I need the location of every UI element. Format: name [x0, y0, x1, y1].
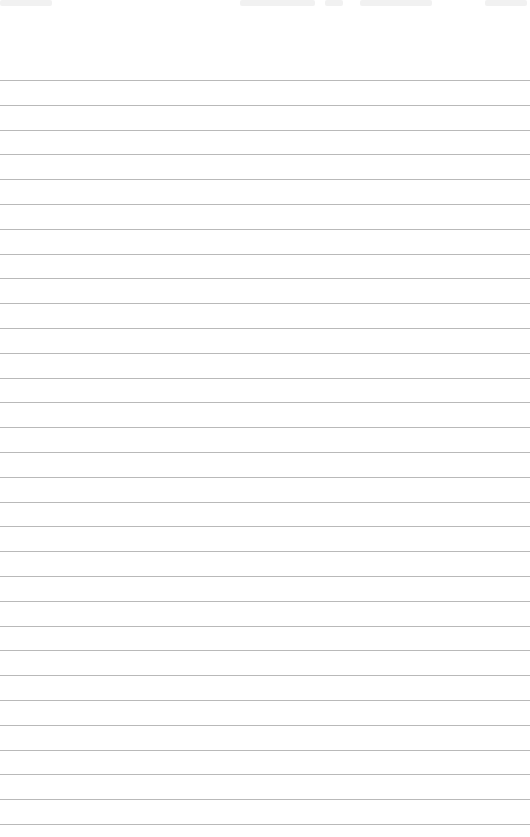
ruled-line [0, 427, 530, 428]
ruled-line [0, 378, 530, 379]
ruled-line [0, 303, 530, 304]
ruled-line [0, 774, 530, 775]
ruled-line [0, 700, 530, 701]
ruled-line [0, 675, 530, 676]
ruled-line [0, 154, 530, 155]
ruled-line [0, 105, 530, 106]
ruled-line [0, 650, 530, 651]
ruled-line [0, 551, 530, 552]
ruled-line [0, 278, 530, 279]
ruled-line [0, 452, 530, 453]
ruled-line [0, 328, 530, 329]
lined-paper-page [0, 0, 530, 837]
ruled-line [0, 824, 530, 825]
ruled-line [0, 353, 530, 354]
ghost-text [360, 0, 432, 6]
ruled-line [0, 130, 530, 131]
faint-header-bleed-through [0, 0, 530, 10]
ruled-line [0, 576, 530, 577]
ruled-line [0, 229, 530, 230]
ruled-line [0, 601, 530, 602]
ruled-line [0, 204, 530, 205]
ruled-line [0, 402, 530, 403]
ruled-line [0, 526, 530, 527]
ruled-line [0, 179, 530, 180]
ghost-text [240, 0, 315, 6]
ruled-line [0, 626, 530, 627]
ruled-line [0, 502, 530, 503]
ruled-line [0, 80, 530, 81]
ghost-text [485, 0, 527, 6]
ruled-line [0, 750, 530, 751]
ruled-line [0, 254, 530, 255]
ghost-text [0, 0, 52, 6]
ruled-line [0, 725, 530, 726]
ghost-text [325, 0, 343, 6]
ruled-line [0, 799, 530, 800]
ruled-line [0, 477, 530, 478]
